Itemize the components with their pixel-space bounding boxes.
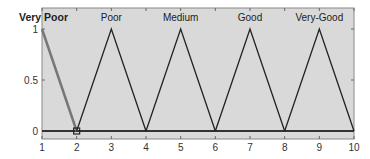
label-poor: Poor <box>101 12 123 23</box>
membership-labels: Very PoorPoorMediumGoodVery-Good <box>19 11 343 23</box>
label-good: Good <box>238 12 262 23</box>
y-tick-label: 0 <box>32 126 38 137</box>
label-very-good: Very-Good <box>295 12 343 23</box>
x-tick-label: 4 <box>143 142 149 153</box>
y-tick-label: 1 <box>32 24 38 35</box>
x-tick-label: 3 <box>109 142 115 153</box>
x-tick-label: 2 <box>74 142 80 153</box>
x-tick-label: 8 <box>282 142 288 153</box>
x-tick-label: 6 <box>213 142 219 153</box>
membership-function-chart: 12345678910 00.51 Very PoorPoorMediumGoo… <box>0 0 370 159</box>
label-medium: Medium <box>163 12 199 23</box>
x-tick-label: 9 <box>317 142 323 153</box>
x-tick-label: 1 <box>39 142 45 153</box>
x-tick-label: 10 <box>348 142 360 153</box>
x-tick-label: 5 <box>178 142 184 153</box>
plot-area[interactable] <box>42 8 354 139</box>
y-tick-label: 0.5 <box>24 75 38 86</box>
label-very-poor: Very Poor <box>19 11 68 23</box>
x-tick-label: 7 <box>247 142 253 153</box>
